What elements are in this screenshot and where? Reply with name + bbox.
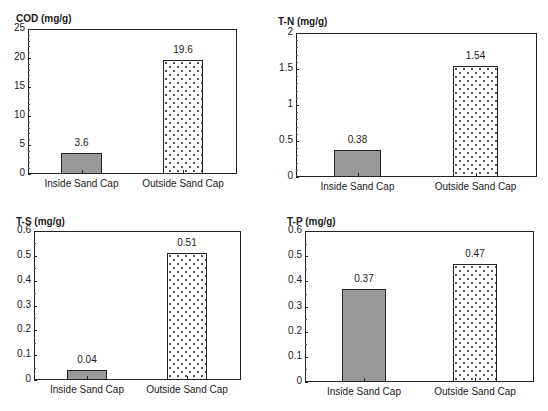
y-tick-mark [34,281,37,282]
y-minor-tick [296,127,298,128]
bar-value-label: 19.6 [158,44,208,55]
y-minor-tick [305,294,307,295]
y-minor-tick [296,47,298,48]
y-minor-tick [296,55,298,56]
x-category-label: Inside Sand Cap [37,384,137,395]
y-minor-tick [296,112,298,113]
y-minor-tick [296,119,298,120]
x-tick-mark [476,173,477,177]
y-minor-tick [28,64,30,65]
y-tick-label: 0 [280,376,302,386]
y-minor-tick [34,268,36,269]
y-tick-label: 0.2 [9,324,31,334]
y-tick-mark [34,330,37,331]
x-category-label: Outside Sand Cap [426,181,526,192]
y-tick-mark [305,382,308,383]
plot-frame [296,33,537,177]
y-tick-mark [28,58,31,59]
y-tick-mark [305,281,308,282]
y-tick-mark [296,33,299,34]
y-minor-tick [28,104,30,105]
y-minor-tick [28,99,30,100]
y-tick-label: 0 [9,374,31,384]
y-tick-label: 0.3 [9,300,31,310]
y-minor-tick [296,83,298,84]
y-minor-tick [28,46,30,47]
y-tick-mark [305,357,308,358]
y-minor-tick [28,133,30,134]
y-tick-mark [34,306,37,307]
y-minor-tick [28,93,30,94]
y-minor-tick [28,41,30,42]
y-minor-tick [28,162,30,163]
bar-outside [453,264,497,382]
y-minor-tick [28,151,30,152]
y-minor-tick [34,293,36,294]
bar-value-label: 0.47 [450,248,500,259]
y-minor-tick [305,269,307,270]
y-minor-tick [296,76,298,77]
x-category-label: Outside Sand Cap [137,384,237,395]
x-category-label: Inside Sand Cap [314,386,414,397]
y-tick-label: 0.4 [9,275,31,285]
y-minor-tick [34,243,36,244]
y-minor-tick [28,128,30,129]
y-minor-tick [296,91,298,92]
y-tick-label: 1.5 [271,63,293,73]
y-tick-label: 0.1 [280,351,302,361]
y-minor-tick [296,62,298,63]
y-minor-tick [305,244,307,245]
y-minor-tick [296,40,298,41]
y-tick-label: 1 [271,99,293,109]
y-tick-label: 15 [3,81,25,91]
y-tick-label: 0 [3,168,25,178]
y-tick-label: 0.6 [9,225,31,235]
y-tick-mark [305,231,308,232]
bar-value-label: 0.51 [162,237,212,248]
y-tick-mark [305,256,308,257]
y-minor-tick [296,163,298,164]
y-tick-mark [296,105,299,106]
x-tick-mark [364,378,365,382]
y-minor-tick [28,139,30,140]
y-minor-tick [34,368,36,369]
y-tick-label: 10 [3,110,25,120]
y-tick-mark [28,145,31,146]
y-minor-tick [296,148,298,149]
x-tick-mark [358,173,359,177]
y-tick-label: 0 [271,171,293,181]
bar-value-label: 1.54 [451,50,501,61]
y-minor-tick [28,122,30,123]
y-minor-tick [28,35,30,36]
y-tick-label: 5 [3,139,25,149]
bar-value-label: 3.6 [57,137,107,148]
y-minor-tick [28,52,30,53]
x-tick-mark [187,376,188,380]
y-tick-mark [34,256,37,257]
bar-value-label: 0.04 [62,354,112,365]
y-tick-label: 0.5 [9,250,31,260]
x-category-label: Outside Sand Cap [133,178,233,189]
y-minor-tick [28,81,30,82]
y-tick-mark [28,29,31,30]
bar-value-label: 0.37 [339,273,389,284]
y-minor-tick [305,344,307,345]
bar-value-label: 0.38 [333,134,383,145]
y-tick-mark [34,380,37,381]
y-tick-mark [34,355,37,356]
x-category-label: Inside Sand Cap [308,181,408,192]
x-tick-mark [82,170,83,174]
y-tick-mark [305,307,308,308]
y-tick-mark [296,69,299,70]
x-tick-mark [475,378,476,382]
y-tick-mark [296,141,299,142]
y-tick-label: 0.5 [271,135,293,145]
y-minor-tick [296,170,298,171]
y-tick-mark [28,116,31,117]
y-tick-mark [28,87,31,88]
y-tick-mark [305,332,308,333]
y-tick-label: 0.3 [280,301,302,311]
y-minor-tick [34,318,36,319]
bar-outside [167,253,207,380]
y-tick-label: 0.2 [280,326,302,336]
